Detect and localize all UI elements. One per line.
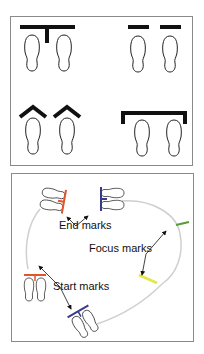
end-mark-red (39, 186, 66, 214)
t-mark-icon (20, 25, 75, 71)
focus-mark-green (176, 222, 189, 225)
end-marks-label: End marks (59, 219, 112, 231)
start-mark-red (24, 275, 46, 301)
stage-path-illustration (12, 174, 195, 343)
foot-mark-styles-panel (10, 16, 193, 166)
bar-marks-icon (128, 25, 181, 72)
focus-marks-label: Focus marks (89, 242, 152, 254)
start-mark-blue (68, 305, 102, 340)
bracket-mark-icon (123, 113, 185, 156)
mark-types-diagram: End marks Focus marks Start marks (11, 173, 194, 342)
focus-mark-yellow (139, 275, 157, 283)
chevron-marks-icon (20, 107, 80, 154)
end-mark-blue (101, 187, 124, 211)
start-marks-label: Start marks (53, 280, 109, 292)
mark-styles-illustration (11, 17, 194, 167)
